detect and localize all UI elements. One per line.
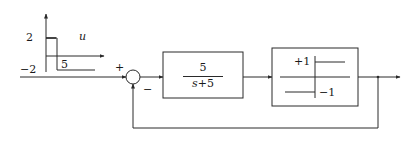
waveform-high-level-label: 2 — [26, 32, 33, 43]
input-signal-label: u — [79, 31, 86, 42]
relay-lower-level-label: −1 — [319, 87, 335, 98]
summer-positive-sign: + — [115, 62, 124, 73]
relay-upper-level-label: +1 — [294, 56, 310, 67]
summer-negative-sign: − — [143, 84, 152, 95]
waveform-low-level-label: −2 — [20, 64, 36, 75]
transfer-function-numerator: 5 — [183, 62, 223, 75]
denominator-const: 5 — [207, 77, 214, 90]
summing-junction-circle — [126, 70, 140, 84]
feedback-tap-node — [377, 76, 380, 79]
transfer-function-denominator: s+5 — [183, 78, 223, 91]
transfer-function-expression: 5 s+5 — [183, 62, 223, 90]
block-diagram: 2 −2 5 u + − 5 s+5 +1 −1 — [0, 0, 416, 141]
waveform-switch-time-label: 5 — [61, 59, 68, 70]
denominator-plus: + — [198, 77, 207, 90]
input-waveform-plot — [46, 14, 104, 72]
